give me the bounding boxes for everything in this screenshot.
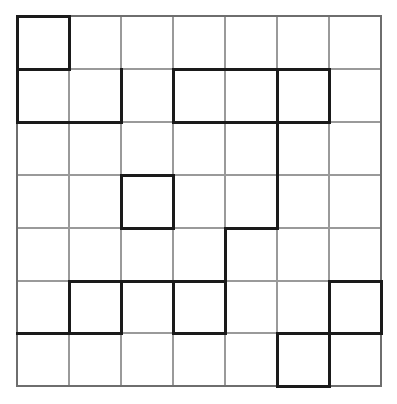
grid-cell-r6-c3[interactable] bbox=[173, 333, 225, 386]
grid-cell-r4-c4[interactable] bbox=[225, 228, 277, 281]
grid-cell-r2-c1[interactable] bbox=[69, 122, 121, 175]
grid-svg[interactable] bbox=[0, 0, 397, 404]
grid-cell-r1-c1[interactable] bbox=[69, 69, 121, 122]
grid-cell-r3-c0[interactable] bbox=[17, 175, 69, 228]
grid-cell-r4-c5[interactable] bbox=[277, 228, 329, 281]
grid-cell-r4-c3[interactable] bbox=[173, 228, 225, 281]
grid-cell-r2-c6[interactable] bbox=[329, 122, 381, 175]
grid-cell-r6-c4[interactable] bbox=[225, 333, 277, 386]
grid-cell-r2-c3[interactable] bbox=[173, 122, 225, 175]
grid-cell-r5-c5[interactable] bbox=[277, 281, 329, 333]
grid-cell-r4-c1[interactable] bbox=[69, 228, 121, 281]
cell-hit-areas[interactable] bbox=[17, 16, 381, 386]
grid-cell-r0-c0[interactable] bbox=[17, 16, 69, 69]
grid-cell-r5-c4[interactable] bbox=[225, 281, 277, 333]
grid-cell-r6-c6[interactable] bbox=[329, 333, 381, 386]
grid-cell-r1-c2[interactable] bbox=[121, 69, 173, 122]
grid-cell-r4-c6[interactable] bbox=[329, 228, 381, 281]
grid-cell-r5-c1[interactable] bbox=[69, 281, 121, 333]
grid-cell-r6-c5[interactable] bbox=[277, 333, 329, 386]
grid-cell-r1-c5[interactable] bbox=[277, 69, 329, 122]
grid-cell-r4-c0[interactable] bbox=[17, 228, 69, 281]
grid-cell-r2-c5[interactable] bbox=[277, 122, 329, 175]
grid-cell-r1-c0[interactable] bbox=[17, 69, 69, 122]
grid-cell-r3-c5[interactable] bbox=[277, 175, 329, 228]
grid-cell-r5-c0[interactable] bbox=[17, 281, 69, 333]
grid-cell-r2-c2[interactable] bbox=[121, 122, 173, 175]
puzzle-canvas bbox=[0, 0, 397, 404]
grid-cell-r1-c3[interactable] bbox=[173, 69, 225, 122]
grid-cell-r3-c3[interactable] bbox=[173, 175, 225, 228]
grid-cell-r5-c6[interactable] bbox=[329, 281, 381, 333]
grid-cell-r1-c6[interactable] bbox=[329, 69, 381, 122]
grid-cell-r3-c2[interactable] bbox=[121, 175, 173, 228]
grid-cell-r4-c2[interactable] bbox=[121, 228, 173, 281]
grid-cell-r0-c5[interactable] bbox=[277, 16, 329, 69]
grid-cell-r3-c1[interactable] bbox=[69, 175, 121, 228]
grid-cell-r5-c2[interactable] bbox=[121, 281, 173, 333]
grid-cell-r3-c4[interactable] bbox=[225, 175, 277, 228]
grid-cell-r6-c2[interactable] bbox=[121, 333, 173, 386]
grid-cell-r6-c0[interactable] bbox=[17, 333, 69, 386]
grid-cell-r2-c0[interactable] bbox=[17, 122, 69, 175]
grid-cell-r3-c6[interactable] bbox=[329, 175, 381, 228]
grid-cell-r0-c6[interactable] bbox=[329, 16, 381, 69]
grid-cell-r5-c3[interactable] bbox=[173, 281, 225, 333]
grid-cell-r1-c4[interactable] bbox=[225, 69, 277, 122]
grid-cell-r2-c4[interactable] bbox=[225, 122, 277, 175]
grid-cell-r6-c1[interactable] bbox=[69, 333, 121, 386]
grid-cell-r0-c2[interactable] bbox=[121, 16, 173, 69]
grid-cell-r0-c1[interactable] bbox=[69, 16, 121, 69]
grid-cell-r0-c3[interactable] bbox=[173, 16, 225, 69]
grid-cell-r0-c4[interactable] bbox=[225, 16, 277, 69]
